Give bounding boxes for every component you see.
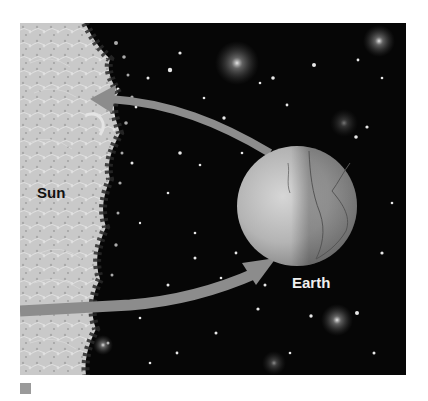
sun-label: Sun <box>37 184 65 201</box>
earth-globe <box>237 146 357 266</box>
sun-earth-illustration: Sun Earth <box>20 23 406 375</box>
figure-marker-square <box>20 383 31 394</box>
illustration-canvas <box>20 23 406 375</box>
earth-label: Earth <box>292 274 330 291</box>
